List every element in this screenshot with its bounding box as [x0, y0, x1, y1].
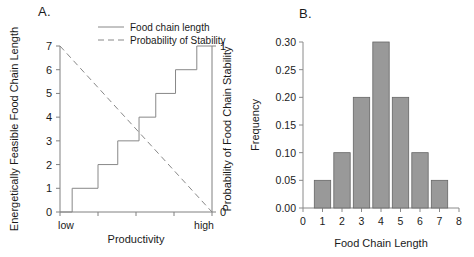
- panel-b-x-axis-title: Food Chain Length: [334, 237, 428, 249]
- panel-b-x-tick-label: 4: [378, 215, 384, 227]
- panel-a-left-tick-label: 0: [46, 206, 52, 218]
- panel-a-x-high-label: high: [194, 219, 214, 231]
- panel-b-bar: [334, 153, 350, 208]
- panel-a-x-axis-title: Productivity: [108, 233, 165, 245]
- panel-b-y-axis-title: Frequency: [249, 99, 261, 151]
- panel-b-bar: [392, 97, 408, 208]
- figure-container: A. 0123456701Energetically Feasible Food…: [0, 0, 474, 257]
- panel-b-x-tick-label: 7: [437, 215, 443, 227]
- panel-b-y-tick-label: 0.25: [276, 64, 297, 76]
- panel-a-left-tick-label: 2: [46, 159, 52, 171]
- panel-b-x-tick-label: 5: [398, 215, 404, 227]
- panel-b-bar: [353, 97, 369, 208]
- panel-b-y-tick-label: 0.30: [276, 36, 297, 48]
- panel-a-left-tick-label: 4: [46, 111, 52, 123]
- panel-b-bar: [412, 153, 428, 208]
- panel-b-x-tick-label: 1: [320, 215, 326, 227]
- panel-b-x-tick-label: 3: [359, 215, 365, 227]
- panel-a-left-tick-label: 5: [46, 87, 52, 99]
- panel-b-y-tick-label: 0.20: [276, 91, 297, 103]
- panel-a-dashed-line-probability-of-stability: [60, 46, 212, 212]
- panel-a-left-tick-label: 6: [46, 64, 52, 76]
- panel-a-x-low-label: low: [58, 219, 74, 231]
- panel-a-legend-label-1: Food chain length: [130, 22, 210, 33]
- panel-a-plot: 0123456701Energetically Feasible Food Ch…: [0, 0, 237, 257]
- panel-a-legend-label-2: Probability of Stability: [130, 35, 226, 46]
- panel-b-y-tick-label: 0.00: [276, 202, 297, 214]
- panel-b-y-tick-label: 0.15: [276, 119, 297, 131]
- panel-a-left-axis-title: Energetically Feasible Food Chain Length: [8, 27, 20, 231]
- panel-b-plot: 0.000.050.100.150.200.250.30012345678Fre…: [237, 0, 474, 257]
- panel-b-x-tick-label: 6: [417, 215, 423, 227]
- panel-b-x-tick-label: 8: [456, 215, 462, 227]
- panel-b: B. 0.000.050.100.150.200.250.30012345678…: [237, 0, 474, 257]
- panel-a-right-axis-title: Probability of Food Chain Stability: [221, 46, 233, 212]
- panel-b-bar: [373, 42, 389, 208]
- panel-a-left-tick-label: 7: [46, 40, 52, 52]
- panel-b-x-tick-label: 0: [300, 215, 306, 227]
- panel-b-y-tick-label: 0.05: [276, 174, 297, 186]
- panel-b-x-tick-label: 2: [339, 215, 345, 227]
- panel-a-left-tick-label: 1: [46, 182, 52, 194]
- panel-b-bar: [431, 180, 447, 208]
- panel-b-y-tick-label: 0.10: [276, 147, 297, 159]
- panel-a: A. 0123456701Energetically Feasible Food…: [0, 0, 237, 257]
- panel-a-left-tick-label: 3: [46, 135, 52, 147]
- panel-b-bar: [314, 180, 330, 208]
